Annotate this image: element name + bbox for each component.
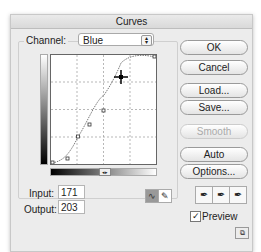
- window-title: Curves: [11, 15, 252, 29]
- curve-tool-icon[interactable]: ∿: [145, 189, 159, 203]
- output-gradient-bar: [40, 54, 48, 165]
- gradient-toggle-button[interactable]: ◂▸: [99, 168, 111, 176]
- curve-graph[interactable]: [50, 54, 157, 165]
- auto-button[interactable]: Auto: [180, 147, 248, 162]
- load-button[interactable]: Load...: [180, 83, 248, 98]
- black-eyedropper-icon[interactable]: ✒: [195, 186, 213, 204]
- pencil-icon[interactable]: ✎: [158, 189, 172, 203]
- gray-eyedropper-icon[interactable]: ✒: [212, 186, 230, 204]
- white-eyedropper-icon[interactable]: ✒: [229, 186, 247, 204]
- output-label: Output:: [24, 204, 57, 215]
- input-field[interactable]: 171: [58, 185, 85, 199]
- chevron-updown-icon: ▴▾: [141, 35, 152, 46]
- channel-label: Channel:: [24, 35, 68, 46]
- expand-view-icon[interactable]: ⧉: [235, 227, 249, 239]
- input-gradient-bar: ◂▸: [50, 168, 157, 176]
- channel-value: Blue: [83, 35, 103, 46]
- options-button[interactable]: Options...: [180, 164, 248, 179]
- smooth-button[interactable]: Smooth: [180, 124, 248, 139]
- cancel-button[interactable]: Cancel: [180, 60, 248, 75]
- ok-button[interactable]: OK: [180, 40, 248, 55]
- save-button[interactable]: Save...: [180, 100, 248, 115]
- preview-label: Preview: [202, 211, 238, 222]
- preview-checkbox[interactable]: ✓: [190, 211, 201, 222]
- input-label: Input:: [29, 188, 54, 199]
- channel-select[interactable]: Blue ▴▾: [78, 33, 154, 46]
- output-field[interactable]: 203: [58, 200, 85, 214]
